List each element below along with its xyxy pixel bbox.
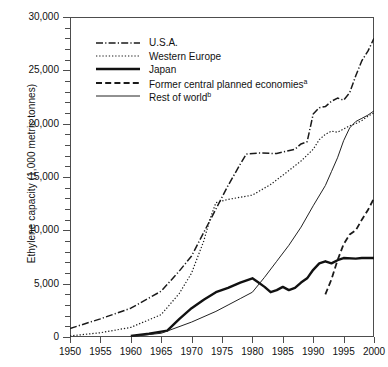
x-axis-tick <box>131 337 132 343</box>
dotted-key <box>96 50 140 62</box>
y-axis-tick-label: 10,000 <box>1 225 59 235</box>
chart-legend: U.S.A.Western EuropeJapanFormer central … <box>96 36 307 103</box>
legend-footnote-marker: a <box>304 78 308 85</box>
y-axis-tick-label: 15,000 <box>1 172 59 182</box>
y-axis-tick-label: 0 <box>1 332 59 342</box>
y-axis-tick-label: 25,000 <box>1 65 59 75</box>
legend-item-label: U.S.A. <box>149 36 178 49</box>
y-axis-tick-major <box>63 70 70 71</box>
x-axis-tick <box>374 337 375 343</box>
x-axis-tick <box>344 337 345 343</box>
x-axis-tick <box>161 337 162 343</box>
dash-dot-key <box>96 37 140 49</box>
solid-thick-key <box>96 63 140 75</box>
legend-footnote-marker: b <box>207 91 211 98</box>
legend-item[interactable]: U.S.A. <box>96 36 307 49</box>
x-axis-tick <box>100 337 101 343</box>
legend-item-label: Western Europe <box>149 50 221 63</box>
series-line-japan <box>131 258 374 336</box>
y-axis-tick-major <box>63 230 70 231</box>
x-axis-tick-label: 2000 <box>354 346 388 357</box>
y-axis-tick-major <box>63 17 70 18</box>
legend-item[interactable]: Western Europe <box>96 49 307 62</box>
x-axis-tick <box>192 337 193 343</box>
series-line-rest-of-world <box>131 111 374 337</box>
dashed-key <box>96 77 140 89</box>
y-axis-tick-major <box>63 284 70 285</box>
y-axis-tick-label: 20,000 <box>1 119 59 129</box>
x-axis-tick <box>70 337 71 343</box>
y-axis-tick-major <box>63 337 70 338</box>
x-axis-tick <box>283 337 284 343</box>
legend-item-label: Rest of worldb <box>149 88 211 104</box>
solid-thin-key <box>96 90 140 102</box>
x-axis-tick <box>222 337 223 343</box>
series-line-former-central-planned-economies <box>325 198 374 294</box>
y-axis-tick-label: 30,000 <box>1 12 59 22</box>
y-axis-tick-major <box>63 177 70 178</box>
x-axis-tick <box>313 337 314 343</box>
y-axis-tick-major <box>63 124 70 125</box>
legend-item[interactable]: Rest of worldb <box>96 90 307 103</box>
y-axis-tick-label: 5,000 <box>1 279 59 289</box>
x-axis-tick <box>252 337 253 343</box>
series-line-western-europe <box>70 113 374 336</box>
chart-figure: Ethylene capacity (1,000 metric tonnes) … <box>0 0 388 367</box>
